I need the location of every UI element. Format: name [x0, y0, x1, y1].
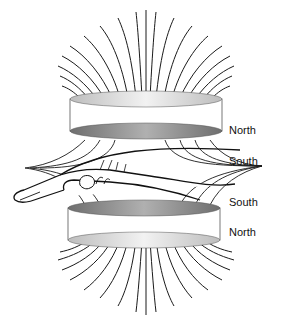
top-field-lines — [58, 10, 234, 98]
hand-outline — [14, 148, 240, 202]
top-magnet-north-label: North — [229, 124, 256, 136]
bottom-magnet-south-label: South — [229, 196, 258, 208]
bottom-magnet — [68, 200, 220, 248]
top-magnet — [70, 91, 222, 139]
bottom-magnet-north-label: North — [229, 226, 256, 238]
bottom-field-lines — [58, 240, 234, 315]
top-magnet-south-label: South — [229, 155, 258, 167]
